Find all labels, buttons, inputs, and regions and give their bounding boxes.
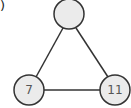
node-top (54, 0, 84, 29)
triangle-graph: 7 11 (0, 0, 131, 108)
edge-top-left (36, 28, 63, 77)
node-left-label: 7 (25, 83, 33, 97)
edge-top-right (76, 28, 108, 77)
node-right-label: 11 (107, 83, 122, 97)
